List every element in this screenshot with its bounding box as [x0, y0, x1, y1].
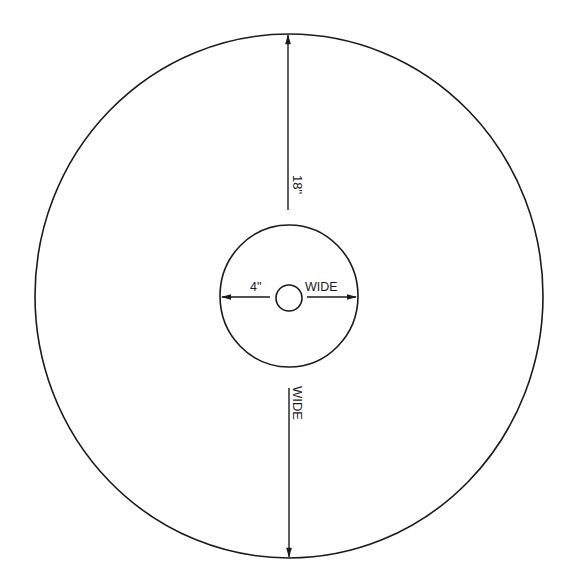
- inner-disc-outline: [220, 225, 358, 367]
- outer-dimension-suffix: WIDE: [290, 386, 305, 420]
- center-hole: [276, 285, 302, 311]
- disc-diagram: 18" WIDE 4" WIDE: [0, 0, 570, 585]
- inner-dimension-label: 4": [250, 280, 261, 294]
- inner-dimension-suffix: WIDE: [305, 280, 338, 294]
- outer-dimension-label: 18": [290, 175, 305, 194]
